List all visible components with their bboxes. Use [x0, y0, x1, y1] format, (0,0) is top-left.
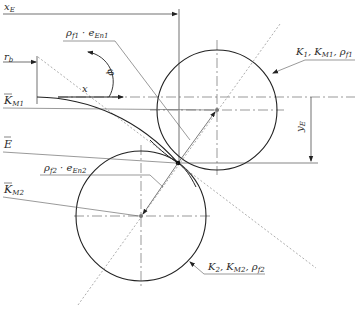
yE-label: yE	[294, 121, 307, 133]
KM2-label: KM2	[3, 183, 24, 197]
xE-dimension: xE	[3, 1, 179, 162]
E-leader	[3, 152, 176, 163]
K2-leader-diag	[190, 262, 204, 274]
center-KM2-dot	[139, 214, 143, 218]
E-label: E	[3, 138, 12, 151]
K2-label: K2, KM2, ρf2	[207, 261, 265, 274]
x-label: x	[82, 83, 88, 94]
KM1-leader	[3, 108, 215, 110]
KM2-leader	[3, 197, 139, 216]
xE-label: xE	[4, 1, 15, 14]
K1-label: K1, KM1, ρf1	[295, 46, 353, 59]
rho-f1-label: ρf1 · eEn1	[65, 27, 108, 40]
yE-dimension: yE	[294, 97, 311, 161]
vector-rho-f2	[143, 163, 178, 214]
gear-tooth-contact-diagram: xE rb x φ KM1 ρf1 · eEn1 E	[0, 0, 355, 311]
phi-label: φ	[105, 67, 118, 77]
rho-f2-leader-diag	[150, 175, 163, 187]
center-KM1-dot	[215, 108, 219, 112]
rho-f2-label: ρf2 · eEn2	[43, 162, 87, 175]
KM1-label: KM1	[3, 94, 24, 108]
K1-leader-diag	[273, 60, 305, 73]
vector-rho-f1	[178, 112, 215, 163]
